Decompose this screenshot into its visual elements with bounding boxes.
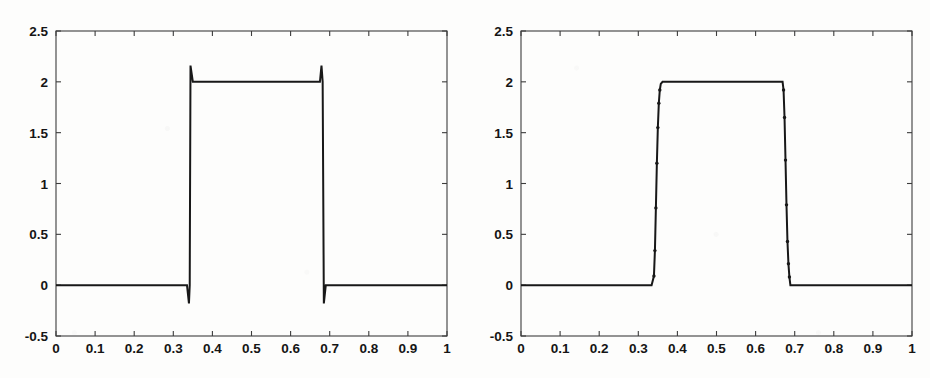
chart-panel-right: 00.10.20.30.40.50.60.70.80.91-0.500.511.… (465, 0, 930, 378)
y-tick-label: 2.5 (29, 24, 48, 39)
x-tick-label: 0 (52, 341, 60, 356)
transition-sample-dot (656, 126, 659, 129)
x-tick-label: 0.1 (551, 341, 570, 356)
y-tick-label: -0.5 (490, 329, 514, 344)
x-tick-label: 0.2 (590, 341, 609, 356)
x-tick-label: 0.5 (242, 341, 261, 356)
y-tick-label: 0 (40, 278, 48, 293)
transition-sample-dot (786, 240, 789, 243)
x-tick-label: 0.6 (746, 341, 765, 356)
x-tick-label: 0.7 (320, 341, 339, 356)
transition-sample-dot (653, 249, 656, 252)
y-tick-label: 0 (505, 278, 513, 293)
x-tick-label: 1 (443, 341, 451, 356)
y-tick-label: 1.5 (29, 126, 48, 141)
x-tick-label: 0.2 (125, 341, 144, 356)
y-tick-label: 1.5 (494, 126, 513, 141)
x-tick-label: 1 (908, 341, 916, 356)
axes-frame (56, 31, 447, 336)
x-tick-label: 0.5 (707, 341, 726, 356)
y-tick-label: 1 (40, 177, 48, 192)
x-tick-label: 0.9 (399, 341, 418, 356)
x-tick-label: 0.3 (629, 341, 648, 356)
transition-sample-dot (787, 262, 790, 265)
transition-sample-dot (654, 206, 657, 209)
transition-sample-dot (652, 274, 655, 277)
x-tick-label: 0.4 (668, 341, 687, 356)
plot-area-right: 00.10.20.30.40.50.60.70.80.91-0.500.511.… (465, 0, 930, 378)
transition-sample-dot (658, 88, 661, 91)
x-tick-label: 0.6 (281, 341, 300, 356)
transition-sample-dot (783, 116, 786, 119)
x-tick-label: 0.9 (864, 341, 883, 356)
x-tick-label: 0.8 (824, 341, 843, 356)
y-tick-label: 0.5 (29, 227, 48, 242)
y-tick-label: 1 (505, 177, 513, 192)
data-series-sharp-reconstruction (56, 66, 447, 304)
y-tick-label: 0.5 (494, 227, 513, 242)
y-tick-label: 2 (505, 75, 513, 90)
transition-sample-dot (657, 101, 660, 104)
transition-sample-dot (655, 161, 658, 164)
transition-sample-dot (784, 158, 787, 161)
y-tick-label: 2 (40, 75, 48, 90)
chart-panel-left: 00.10.20.30.40.50.60.70.80.91-0.500.511.… (0, 0, 465, 378)
y-tick-label: 2.5 (494, 24, 513, 39)
x-tick-label: 0.4 (203, 341, 222, 356)
transition-sample-dot (782, 88, 785, 91)
x-tick-label: 0.3 (164, 341, 183, 356)
y-tick-label: -0.5 (25, 329, 49, 344)
axes-frame (521, 31, 912, 336)
figure-two-panel-square-wave: 00.10.20.30.40.50.60.70.80.91-0.500.511.… (0, 0, 930, 378)
x-tick-label: 0 (517, 341, 525, 356)
plot-area-left: 00.10.20.30.40.50.60.70.80.91-0.500.511.… (0, 0, 465, 378)
data-series-monotone-reconstruction (521, 82, 912, 285)
x-tick-label: 0.7 (785, 341, 804, 356)
transition-sample-dot (785, 203, 788, 206)
x-tick-label: 0.8 (359, 341, 378, 356)
x-tick-label: 0.1 (86, 341, 105, 356)
transition-sample-dot (788, 275, 791, 278)
